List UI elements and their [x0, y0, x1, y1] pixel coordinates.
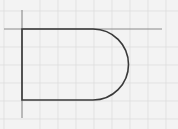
diagram-canvas [0, 0, 178, 129]
d-shape-outline [22, 29, 129, 100]
d-shape-diagram [0, 0, 178, 129]
grid-lines [0, 0, 178, 129]
